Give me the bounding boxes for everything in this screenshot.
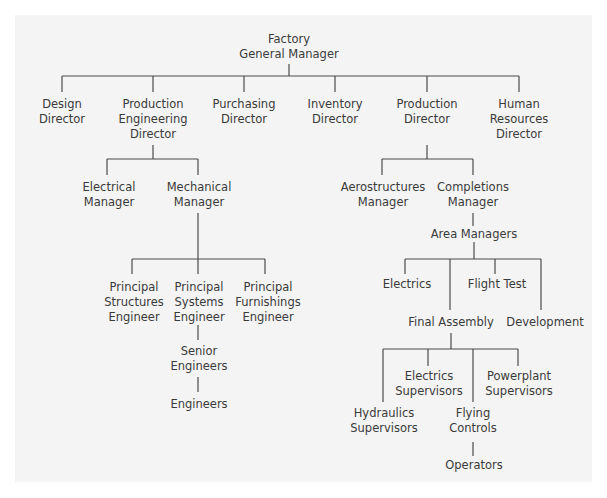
node-flight-test: Flight Test [468,277,526,292]
node-aerostructures-manager: Aerostructures Manager [341,180,425,210]
node-factory-general-manager: Factory General Manager [239,32,338,62]
node-electrics-supervisors: Electrics Supervisors [395,369,462,399]
node-flying-controls: Flying Controls [449,406,497,436]
node-area-managers: Area Managers [431,227,518,242]
node-design-director: Design Director [39,97,85,127]
node-production-engineering-director: Production Engineering Director [119,97,188,142]
node-development: Development [506,315,583,330]
node-powerplant-supervisors: Powerplant Supervisors [485,369,552,399]
node-hydraulics-supervisors: Hydraulics Supervisors [350,406,417,436]
node-principal-structures-engineer: Principal Structures Engineer [104,280,164,325]
node-production-director: Production Director [396,97,457,127]
node-completions-manager: Completions Manager [437,180,509,210]
node-purchasing-director: Purchasing Director [213,97,276,127]
node-inventory-director: Inventory Director [308,97,363,127]
node-human-resources-director: Human Resources Director [490,97,549,142]
node-senior-engineers: Senior Engineers [170,344,227,374]
node-engineers: Engineers [170,397,227,412]
node-mechanical-manager: Mechanical Manager [167,180,232,210]
node-principal-furnishings-engineer: Principal Furnishings Engineer [235,280,300,325]
node-electrics: Electrics [383,277,432,292]
connector-lines [0,0,607,498]
node-operators: Operators [445,458,502,473]
node-final-assembly: Final Assembly [408,315,494,330]
node-electrical-manager: Electrical Manager [83,180,136,210]
node-principal-systems-engineer: Principal Systems Engineer [173,280,224,325]
